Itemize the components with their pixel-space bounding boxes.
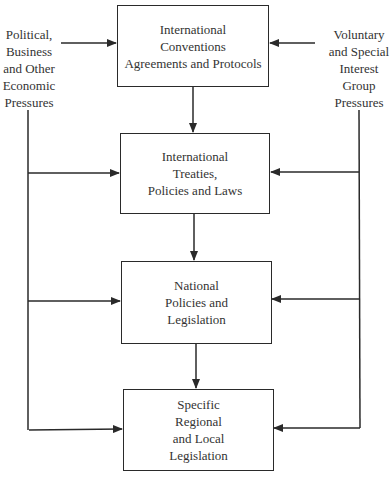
left-source-text: Political, Business and Other Economic P… — [3, 27, 56, 110]
arrow-left-to-box4 — [29, 429, 122, 430]
box-label: Specific Regional and Local Legislation — [169, 396, 228, 464]
box-label: National Policies and Legislation — [165, 277, 228, 328]
right-source-text: Voluntary and Special Interest Group Pre… — [329, 27, 389, 110]
right-trunk-line — [359, 110, 360, 428]
box-international-treaties: International Treaties, Policies and Law… — [120, 133, 270, 214]
left-source-label: Political, Business and Other Economic P… — [0, 9, 58, 111]
right-source-label: Voluntary and Special Interest Group Pre… — [326, 9, 392, 111]
box-label: International Treaties, Policies and Law… — [148, 148, 243, 199]
box-regional-local: Specific Regional and Local Legislation — [123, 389, 274, 471]
box-national-policies: National Policies and Legislation — [121, 261, 272, 344]
box-label: International Conventions Agreements and… — [124, 21, 261, 72]
box-international-conventions: International Conventions Agreements and… — [117, 5, 269, 87]
